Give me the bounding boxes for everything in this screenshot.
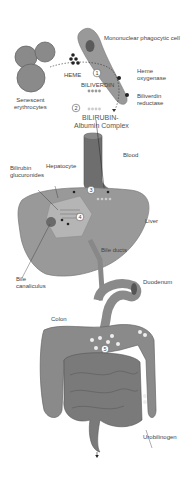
heme-label: HEME bbox=[64, 72, 81, 79]
colon-label: Colon bbox=[51, 316, 67, 323]
svg-text:1: 1 bbox=[95, 70, 98, 76]
urobilinogen-label: Urobilinogen bbox=[143, 434, 177, 441]
senescent-erythrocytes-label: Senescenterythrocytes bbox=[14, 97, 47, 111]
small-intestine-icon bbox=[64, 353, 142, 452]
bile-canaliculus-label: Bilecanaliculus bbox=[16, 276, 46, 290]
complex-label-1: BILIRUBIN- bbox=[82, 114, 119, 121]
heme-oxygenase-label: Hemeoxygenase bbox=[137, 68, 166, 82]
svg-text:5: 5 bbox=[103, 346, 106, 352]
complex-label-2: Albumin Complex bbox=[74, 122, 129, 129]
svg-text:4: 4 bbox=[78, 214, 81, 220]
erythrocytes-icon bbox=[15, 42, 55, 92]
bile-ducts-label: Bile ducts bbox=[101, 247, 127, 254]
svg-text:3: 3 bbox=[89, 187, 92, 193]
hepatocyte-label: Hepatocyte bbox=[46, 163, 76, 170]
duodenum-label: Duodenum bbox=[143, 279, 172, 286]
blood-label: Blood bbox=[123, 152, 138, 159]
svg-text:2: 2 bbox=[74, 105, 77, 111]
biliverdin-reductase-label: Biliverdinreductase bbox=[137, 93, 163, 107]
liver-label: Liver bbox=[145, 218, 158, 225]
bile-canaliculus-icon bbox=[46, 217, 56, 227]
biliverdin-label: BILIVERDIN bbox=[81, 82, 114, 89]
phagocyte-label: Mononuclear phagocytic cell bbox=[104, 35, 180, 42]
bilirubin-glucuronides-label: Bilirubinglucuronides bbox=[10, 165, 44, 179]
